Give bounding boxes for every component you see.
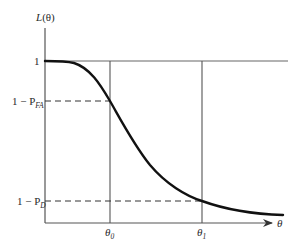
theta0-sub: 0	[110, 232, 114, 241]
y-axis-label: L(θ)	[35, 11, 55, 24]
tick-label-one: 1	[34, 55, 40, 67]
tick-label-theta0: θ0	[105, 226, 114, 241]
oc-curve-diagram: L(θ) 1 1 − PFA 1 − PD θ0 θ1 θ	[0, 0, 300, 248]
diagram-canvas: L(θ) 1 1 − PFA 1 − PD θ0 θ1 θ	[0, 0, 300, 248]
pd-label-sub: D	[39, 201, 46, 210]
theta1-sub: 1	[202, 232, 206, 241]
oc-curve	[45, 61, 283, 215]
pfa-label-prefix: 1 − P	[12, 95, 35, 107]
tick-label-theta1: θ1	[197, 226, 206, 241]
pfa-label-sub: FA	[34, 101, 44, 110]
y-axis-label-arg: (θ)	[42, 11, 55, 24]
tick-label-pd: 1 − PD	[17, 195, 46, 210]
y-axis-label-main: L	[35, 11, 42, 23]
tick-label-pfa: 1 − PFA	[12, 95, 44, 110]
x-axis-label: θ	[277, 217, 283, 229]
pd-label-prefix: 1 − P	[17, 195, 40, 207]
